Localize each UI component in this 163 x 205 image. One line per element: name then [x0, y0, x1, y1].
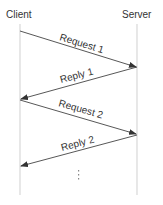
request-1-label: Request 1: [58, 31, 105, 55]
reply-2-label: Reply 2: [60, 133, 96, 153]
request-2-label: Request 2: [57, 97, 104, 120]
reply-1-label: Reply 1: [59, 65, 95, 85]
participant-client: Client: [6, 9, 32, 20]
sequence-diagram: Client Server Request 1 Reply 1 Request …: [0, 0, 163, 205]
participant-server: Server: [122, 9, 152, 20]
continuation-dots: [78, 170, 79, 180]
